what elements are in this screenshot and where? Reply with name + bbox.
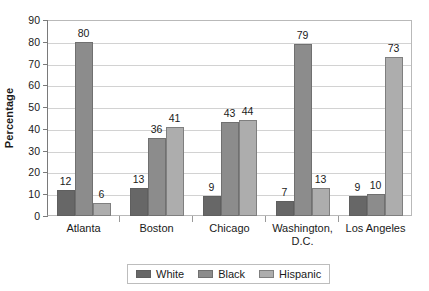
- bar-group: 77913: [266, 20, 339, 216]
- bar-fill: [276, 201, 294, 216]
- x-axis-label-line: Los Angeles: [339, 222, 412, 235]
- bar[interactable]: 80: [75, 42, 93, 216]
- bar-fill: [166, 127, 184, 216]
- bar[interactable]: 10: [367, 194, 385, 216]
- bar[interactable]: 6: [93, 203, 111, 216]
- bar-value-label: 6: [99, 188, 105, 200]
- bar-value-label: 79: [297, 29, 309, 41]
- bar[interactable]: 44: [239, 120, 257, 216]
- x-axis-label-line: D.C.: [266, 235, 339, 248]
- legend-label: Hispanic: [279, 268, 321, 280]
- bar[interactable]: 9: [349, 196, 367, 216]
- bar-value-label: 7: [282, 186, 288, 198]
- bar[interactable]: 13: [130, 188, 148, 216]
- legend-swatch: [198, 270, 213, 278]
- bar-fill: [57, 190, 75, 216]
- legend-swatch: [259, 270, 274, 278]
- x-axis-label: Chicago: [193, 222, 266, 248]
- y-axis-tick-label: 70: [10, 58, 40, 70]
- bar[interactable]: 9: [203, 196, 221, 216]
- x-axis-label: Los Angeles: [339, 222, 412, 248]
- bar-fill: [221, 122, 239, 216]
- bar[interactable]: 13: [312, 188, 330, 216]
- bar[interactable]: 41: [166, 127, 184, 216]
- y-axis-tick-label: 60: [10, 79, 40, 91]
- bar-value-label: 43: [224, 107, 236, 119]
- bar-fill: [239, 120, 257, 216]
- legend-swatch: [136, 270, 151, 278]
- bar[interactable]: 7: [276, 201, 294, 216]
- bar-fill: [93, 203, 111, 216]
- legend-label: Black: [218, 268, 245, 280]
- bar-chart: Percentage 9080706050403020100 128061336…: [0, 0, 429, 291]
- bar-value-label: 73: [388, 42, 400, 54]
- bar-value-label: 13: [315, 173, 327, 185]
- bar[interactable]: 43: [221, 122, 239, 216]
- bar-value-label: 9: [355, 181, 361, 193]
- legend-item-black[interactable]: Black: [198, 268, 245, 280]
- bar-fill: [148, 138, 166, 216]
- bar-fill: [294, 44, 312, 216]
- x-axis-label-line: Washington,: [266, 222, 339, 235]
- bar[interactable]: 36: [148, 138, 166, 216]
- bar-fill: [367, 194, 385, 216]
- bar-group: 133641: [120, 20, 193, 216]
- y-axis-tick-label: 40: [10, 123, 40, 135]
- y-axis-tick-label: 80: [10, 36, 40, 48]
- y-axis-tick: [43, 216, 48, 217]
- bar-value-label: 13: [133, 173, 145, 185]
- bar-fill: [203, 196, 221, 216]
- y-axis-title: Percentage: [2, 20, 16, 216]
- y-axis-tick-label: 10: [10, 188, 40, 200]
- y-axis-tick-label: 50: [10, 101, 40, 113]
- legend-item-white[interactable]: White: [136, 268, 184, 280]
- bar[interactable]: 73: [385, 57, 403, 216]
- bar-value-label: 44: [242, 105, 254, 117]
- bar-value-label: 9: [209, 181, 215, 193]
- bar-value-label: 41: [169, 112, 181, 124]
- y-axis-tick-label: 0: [10, 210, 40, 222]
- legend-label: White: [156, 268, 184, 280]
- x-axis-label: Atlanta: [47, 222, 120, 248]
- y-axis-tick-label: 90: [10, 14, 40, 26]
- bar-fill: [130, 188, 148, 216]
- x-axis-label: Washington,D.C.: [266, 222, 339, 248]
- legend-item-hispanic[interactable]: Hispanic: [259, 268, 321, 280]
- x-axis-label-line: Atlanta: [47, 222, 120, 235]
- bar[interactable]: 12: [57, 190, 75, 216]
- y-axis-tick-label: 30: [10, 145, 40, 157]
- bar-fill: [75, 42, 93, 216]
- bar-group: 91073: [339, 20, 412, 216]
- bar-fill: [312, 188, 330, 216]
- y-axis-tick-label: 20: [10, 166, 40, 178]
- x-axis-label: Boston: [120, 222, 193, 248]
- bar-groups: 12806133641943447791391073: [47, 20, 412, 216]
- bar-value-label: 10: [370, 179, 382, 191]
- bar-fill: [349, 196, 367, 216]
- chart-legend: WhiteBlackHispanic: [127, 264, 330, 284]
- bar-group: 94344: [193, 20, 266, 216]
- x-axis-label-line: Boston: [120, 222, 193, 235]
- bar-group: 12806: [47, 20, 120, 216]
- bar-fill: [385, 57, 403, 216]
- bar-value-label: 12: [60, 175, 72, 187]
- bar-value-label: 36: [151, 123, 163, 135]
- x-axis-labels: AtlantaBostonChicagoWashington,D.C.Los A…: [47, 222, 412, 248]
- bar-value-label: 80: [78, 27, 90, 39]
- x-axis-label-line: Chicago: [193, 222, 266, 235]
- bar[interactable]: 79: [294, 44, 312, 216]
